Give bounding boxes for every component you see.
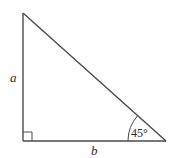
angle-label: 45° [131,126,148,140]
right-angle-marker [23,132,32,141]
side-label-a: a [10,70,17,85]
side-label-b: b [91,143,98,158]
hypotenuse [23,13,166,141]
right-triangle-diagram: a b 45° [0,0,171,158]
